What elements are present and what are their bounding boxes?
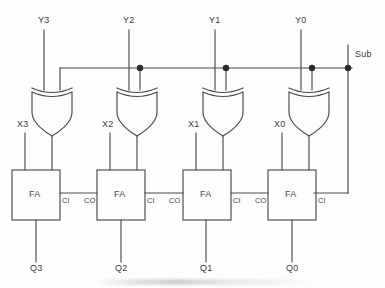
label-sub: Sub xyxy=(355,49,372,59)
label-ci-bit1: CI xyxy=(233,196,241,205)
xor-gate-bit2-body xyxy=(117,92,157,136)
xor-gate-bit1-arc xyxy=(203,88,243,93)
label-q1: Q1 xyxy=(200,263,212,273)
junction-dot-bit2 xyxy=(137,65,143,71)
xor-gate-bit2-arc xyxy=(117,88,157,93)
label-ci-bit2: CI xyxy=(147,196,155,205)
label-fa-bit2: FA xyxy=(114,189,125,199)
xor-gate-bit3-arc xyxy=(32,88,72,93)
label-co-bit2: CO xyxy=(84,196,95,205)
label-co-bit1: CO xyxy=(169,196,180,205)
label-ci-bit3: CI xyxy=(62,196,70,205)
label-fa-bit1: FA xyxy=(200,189,211,199)
junction-dot-bit0 xyxy=(309,65,315,71)
label-q0: Q0 xyxy=(286,263,298,273)
label-x3: X3 xyxy=(17,119,28,129)
label-y3: Y3 xyxy=(38,15,49,25)
label-fa-bit0: FA xyxy=(285,189,296,199)
junction-dot-bit1 xyxy=(223,65,229,71)
label-ci-bit0: CI xyxy=(318,196,326,205)
label-x2: X2 xyxy=(102,119,113,129)
circuit-diagram-canvas: Y3 Y2 Y1 Y0 Sub X3 X2 X1 X0 FA FA FA FA … xyxy=(0,0,385,288)
xor-gate-bit1-body xyxy=(203,92,243,136)
label-q2: Q2 xyxy=(115,263,127,273)
xor-gate-bit3-body xyxy=(32,92,72,136)
label-y1: Y1 xyxy=(209,15,220,25)
label-fa-bit3: FA xyxy=(29,189,40,199)
label-y2: Y2 xyxy=(123,15,134,25)
schematic-svg xyxy=(0,0,385,288)
xor-gate-bit0-body xyxy=(289,92,329,136)
label-x1: X1 xyxy=(188,119,199,129)
label-y0: Y0 xyxy=(295,15,306,25)
xor-gate-bit0-arc xyxy=(289,88,329,93)
junction-dot-sub xyxy=(345,65,351,71)
label-co-bit0: CO xyxy=(255,196,266,205)
label-q3: Q3 xyxy=(30,263,42,273)
label-x0: X0 xyxy=(274,119,285,129)
